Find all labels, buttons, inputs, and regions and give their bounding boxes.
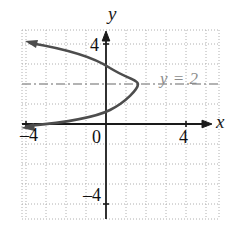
axis-lines xyxy=(22,31,212,219)
x-tick-label-4: 4 xyxy=(179,128,188,146)
x-tick-label-minus-4: –4 xyxy=(20,126,38,144)
y-tick-label-4: 4 xyxy=(90,36,99,54)
parabola-upper-arrowhead xyxy=(25,40,38,48)
x-axis-arrowhead xyxy=(202,120,212,128)
x-axis-label: x xyxy=(216,112,224,131)
y-axis-arrowhead xyxy=(102,31,110,41)
parabola-curve xyxy=(21,40,138,131)
origin-label: 0 xyxy=(92,128,101,146)
reference-line-label: y = 2 xyxy=(160,70,199,87)
coordinate-plane-svg xyxy=(0,0,235,226)
y-axis-label: y xyxy=(108,4,116,23)
y-tick-label-minus-4: –4 xyxy=(83,186,101,204)
graph-figure: y x 4 –4 4 –4 0 y = 2 xyxy=(0,0,235,226)
